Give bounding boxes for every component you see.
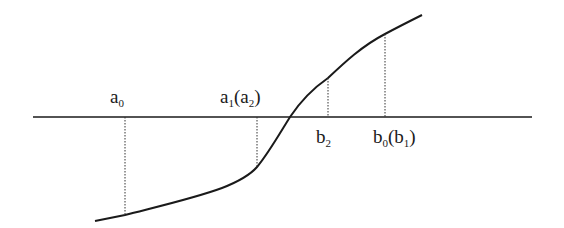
label-a0: a0 [110, 87, 124, 106]
paren-close: ) [254, 86, 260, 107]
function-curve [95, 15, 422, 221]
paren-close: ) [409, 126, 415, 147]
label-b0-b1: b0(b1) [373, 127, 416, 146]
bisection-diagram [0, 0, 564, 228]
label-b0-base: b [373, 126, 383, 147]
label-b2-sub: 2 [326, 137, 332, 149]
label-b1-base: b [394, 126, 404, 147]
label-a0-sub: 0 [118, 97, 124, 109]
label-a2-base: a [240, 86, 248, 107]
label-a1-a2: a1(a2) [220, 87, 261, 106]
label-b2: b2 [316, 127, 331, 146]
label-b2-base: b [316, 126, 326, 147]
